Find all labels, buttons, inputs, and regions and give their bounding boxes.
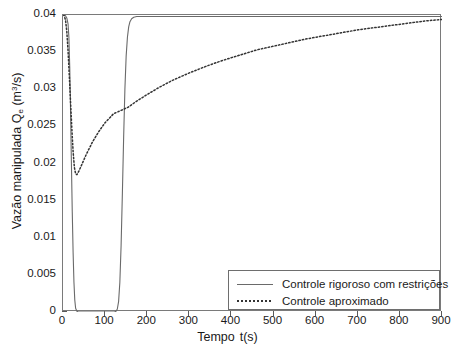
x-tick-label: 0 xyxy=(42,314,82,326)
y-axis-title-text: Vazão manipulada Q xyxy=(10,114,24,230)
legend-label-aproximado: Controle aproximado xyxy=(282,295,389,307)
chart-legend: Controle rigoroso com restrições Control… xyxy=(228,270,440,310)
y-axis-title-subscript: e xyxy=(16,109,25,113)
y-tick-label: 0.035 xyxy=(0,45,56,57)
y-tick-label: 0.04 xyxy=(0,8,56,20)
y-tick-label: 0.015 xyxy=(0,194,56,206)
y-axis-title: Vazão manipulada Qe (m3/s) xyxy=(7,51,25,251)
y-tick-label: 0.03 xyxy=(0,82,56,94)
y-tick-label: 0.005 xyxy=(0,268,56,280)
x-axis-title-prefix: Tempo xyxy=(197,330,235,344)
y-tick-label: 0.02 xyxy=(0,157,56,169)
x-tick-label: 900 xyxy=(421,314,455,326)
chart-figure: Vazão manipulada Qe (m3/s) 00.0050.010.0… xyxy=(0,0,455,354)
plot-area xyxy=(62,14,441,311)
legend-label-rigoroso: Controle rigoroso com restrições xyxy=(282,278,448,290)
curves-layer xyxy=(63,15,442,312)
legend-item-aproximado: Controle aproximado xyxy=(229,292,439,309)
x-axis-title-suffix: t(s) xyxy=(240,330,258,344)
legend-key-solid-line xyxy=(235,279,275,289)
legend-key-dotted-line xyxy=(235,296,275,306)
y-tick-label: 0.025 xyxy=(0,119,56,131)
y-tick-label: 0.01 xyxy=(0,231,56,243)
x-axis-title: Tempot(s) xyxy=(0,330,455,344)
series-controle-rigoroso xyxy=(63,15,442,312)
series-controle-aproximado xyxy=(63,15,442,175)
legend-item-rigoroso: Controle rigoroso com restrições xyxy=(229,275,439,292)
